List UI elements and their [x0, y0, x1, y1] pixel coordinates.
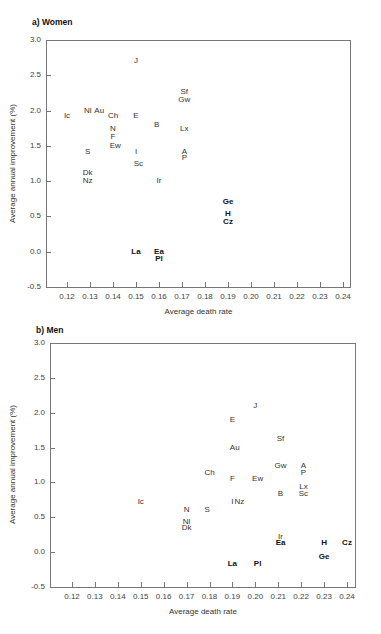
data-point-label: Ch: [204, 469, 214, 477]
chart-title: b) Men: [36, 325, 63, 335]
x-tick-mark: [159, 282, 160, 287]
data-point-label: P: [182, 154, 187, 162]
x-tick-mark: [274, 282, 275, 287]
x-tick-mark: [95, 582, 96, 587]
y-tick-label: 1.0: [21, 477, 45, 486]
y-axis-label: Average annual improvement (%): [8, 365, 17, 565]
y-tick-label: -0.5: [21, 582, 45, 591]
x-tick-mark: [278, 582, 279, 587]
y-tick-mark: [46, 181, 51, 182]
y-tick-mark: [50, 448, 55, 449]
x-tick-mark: [90, 282, 91, 287]
data-point-label: La: [131, 248, 140, 256]
data-point-label: N: [184, 506, 190, 514]
data-point-label: Ew: [110, 142, 121, 150]
data-point-label: B: [278, 490, 283, 498]
y-tick-label: -0.5: [17, 282, 41, 291]
data-point-label: Gw: [178, 96, 190, 104]
data-point-label: Ge: [223, 198, 234, 206]
data-point-label: Ic: [138, 498, 144, 506]
data-point-label: La: [228, 560, 237, 568]
data-point-label: B: [154, 121, 159, 129]
data-point-label: Nz: [234, 498, 244, 506]
data-point-label: Gw: [275, 462, 287, 470]
data-point-label: Sf: [277, 435, 285, 443]
y-tick-label: 2.5: [17, 70, 41, 79]
data-point-label: Ea: [276, 539, 286, 547]
data-point-label: Ir: [157, 177, 162, 185]
x-tick-mark: [232, 582, 233, 587]
y-tick-mark: [46, 216, 51, 217]
data-point-label: Nl: [84, 107, 92, 115]
data-point-label: I: [135, 148, 137, 156]
data-point-label: Sc: [299, 490, 308, 498]
data-point-label: E: [230, 416, 235, 424]
x-axis-label: Average death rate: [99, 307, 299, 316]
data-point-label: J: [134, 57, 138, 65]
x-tick-mark: [324, 582, 325, 587]
x-tick-mark: [347, 582, 348, 587]
data-point-label: P: [301, 469, 306, 477]
x-tick-mark: [255, 582, 256, 587]
data-point-label: S: [205, 506, 210, 514]
y-tick-mark: [46, 146, 51, 147]
x-tick-mark: [343, 282, 344, 287]
data-point-label: Cz: [223, 218, 233, 226]
data-point-label: Au: [230, 444, 240, 452]
data-point-label: Ic: [64, 112, 70, 120]
x-tick-mark: [67, 282, 68, 287]
y-tick-label: 0.0: [21, 547, 45, 556]
women-chart-panel: a) Women3.02.52.01.51.00.50.0-0.50.120.1…: [0, 0, 381, 317]
data-point-label: I: [231, 498, 233, 506]
y-tick-label: 3.0: [17, 35, 41, 44]
data-point-label: E: [133, 112, 138, 120]
x-tick-mark: [72, 582, 73, 587]
data-point-label: F: [230, 475, 235, 483]
y-tick-label: 2.0: [17, 106, 41, 115]
x-tick-mark: [136, 282, 137, 287]
x-tick-mark: [228, 282, 229, 287]
y-tick-mark: [46, 111, 51, 112]
y-tick-label: 0.5: [17, 211, 41, 220]
y-tick-mark: [50, 378, 55, 379]
y-tick-label: 3.0: [21, 338, 45, 347]
data-point-label: Ch: [108, 112, 118, 120]
y-tick-label: 1.0: [17, 176, 41, 185]
x-tick-label: 0.24: [332, 592, 362, 601]
x-tick-mark: [301, 582, 302, 587]
plot-area: [50, 343, 356, 588]
x-tick-mark: [320, 282, 321, 287]
x-tick-mark: [164, 582, 165, 587]
x-tick-mark: [182, 282, 183, 287]
x-tick-label: 0.24: [328, 292, 358, 301]
data-point-label: Ew: [252, 475, 263, 483]
y-tick-label: 2.0: [21, 408, 45, 417]
men-chart-panel: b) Men3.02.52.01.51.00.50.0-0.50.120.130…: [0, 317, 381, 634]
data-point-label: Pl: [155, 255, 163, 263]
data-point-label: Lx: [180, 125, 188, 133]
data-point-label: H: [321, 539, 327, 547]
y-tick-mark: [50, 482, 55, 483]
y-tick-label: 1.5: [17, 141, 41, 150]
chart-title: a) Women: [32, 17, 72, 27]
x-tick-mark: [113, 282, 114, 287]
y-tick-label: 1.5: [21, 443, 45, 452]
data-point-label: Pl: [254, 560, 262, 568]
plot-area: [46, 40, 351, 288]
x-axis-label: Average death rate: [103, 607, 303, 616]
data-point-label: Dk: [182, 524, 192, 532]
data-point-label: S: [85, 148, 90, 156]
x-tick-mark: [187, 582, 188, 587]
x-tick-mark: [118, 582, 119, 587]
y-tick-mark: [46, 75, 51, 76]
y-axis-label: Average annual improvement (%): [8, 63, 17, 263]
data-point-label: Au: [94, 107, 104, 115]
y-tick-label: 0.5: [21, 512, 45, 521]
y-tick-mark: [50, 413, 55, 414]
y-tick-mark: [50, 552, 55, 553]
data-point-label: Nz: [83, 177, 93, 185]
x-tick-mark: [297, 282, 298, 287]
x-tick-mark: [251, 282, 252, 287]
x-tick-mark: [210, 582, 211, 587]
x-tick-mark: [141, 582, 142, 587]
